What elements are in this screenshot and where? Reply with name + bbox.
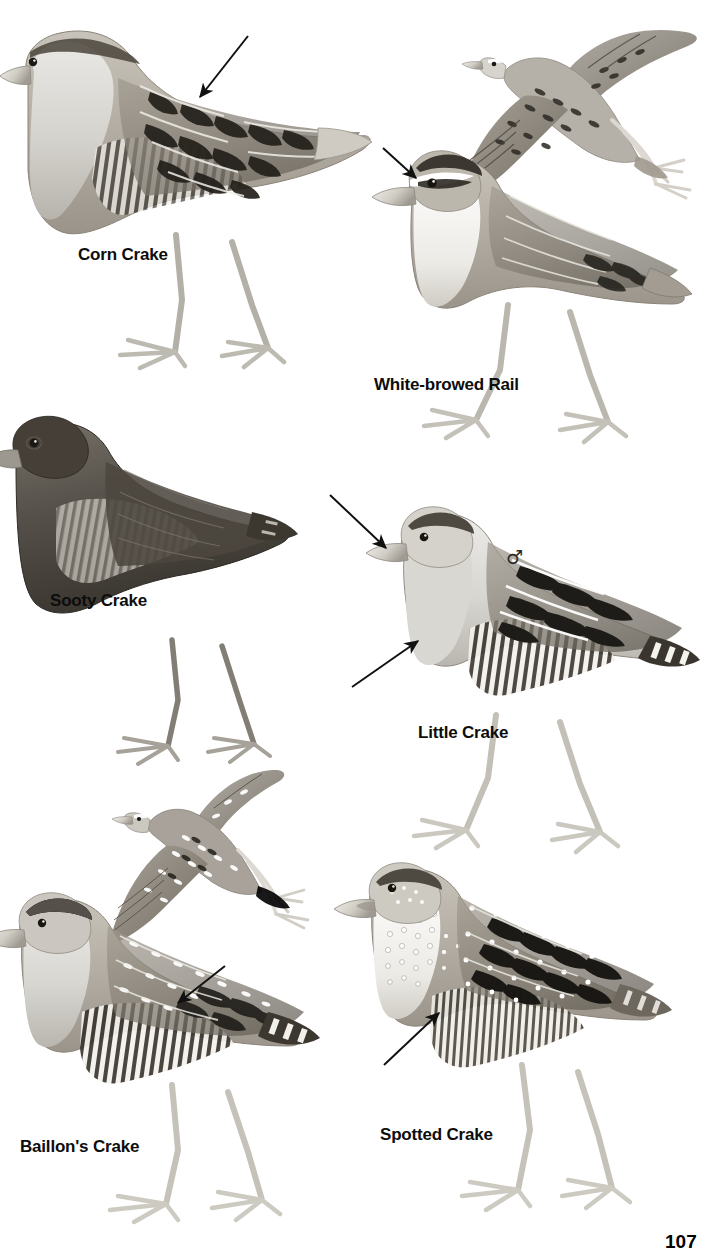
plate-illustrations xyxy=(0,0,714,1250)
baillon-flight-wing xyxy=(111,846,208,944)
wbr-pointer xyxy=(383,148,416,178)
sooty-eye xyxy=(30,439,39,448)
wbr-bill xyxy=(372,187,416,205)
bird-corn-crake xyxy=(0,31,372,368)
spotted-eye xyxy=(388,884,396,892)
baillon-eye xyxy=(38,919,46,927)
species-label-sooty-crake: Sooty Crake xyxy=(50,592,147,609)
species-label-corn-crake: Corn Crake xyxy=(78,246,168,263)
species-label-white-browed-rail: White-browed Rail xyxy=(374,376,519,393)
page-number: 107 xyxy=(665,1232,697,1250)
corn-crake-tail xyxy=(314,128,372,160)
species-label-spotted-crake: Spotted Crake xyxy=(380,1126,493,1143)
bird-sooty-crake xyxy=(0,416,298,764)
corn-crake-pointer xyxy=(200,36,248,97)
little-crake-pointer-breast xyxy=(352,641,418,687)
species-label-little-crake: Little Crake xyxy=(418,724,508,741)
field-guide-plate: Corn Crake White-browed Rail Sooty Crake… xyxy=(0,0,714,1250)
little-crake-bill xyxy=(366,543,408,561)
bird-baillons-crake-flight xyxy=(111,770,308,944)
little-crake-eye xyxy=(420,533,429,542)
baillon-bill xyxy=(0,929,26,947)
corn-crake-feet xyxy=(120,340,284,368)
sooty-bill xyxy=(0,450,22,468)
little-crake-pointer-bill xyxy=(330,495,386,548)
corn-crake-legs xyxy=(175,235,268,352)
corn-crake-eye xyxy=(29,58,37,66)
corn-crake-bill xyxy=(0,66,31,85)
male-sex-symbol: ♂ xyxy=(506,548,523,567)
bird-white-browed-rail-flight xyxy=(462,30,697,200)
bird-spotted-crake xyxy=(334,863,672,1210)
wbr-eye xyxy=(427,178,436,187)
species-label-baillons-crake: Baillon's Crake xyxy=(20,1138,139,1155)
bird-baillons-crake xyxy=(0,893,320,1222)
bird-white-browed-rail xyxy=(372,148,692,442)
